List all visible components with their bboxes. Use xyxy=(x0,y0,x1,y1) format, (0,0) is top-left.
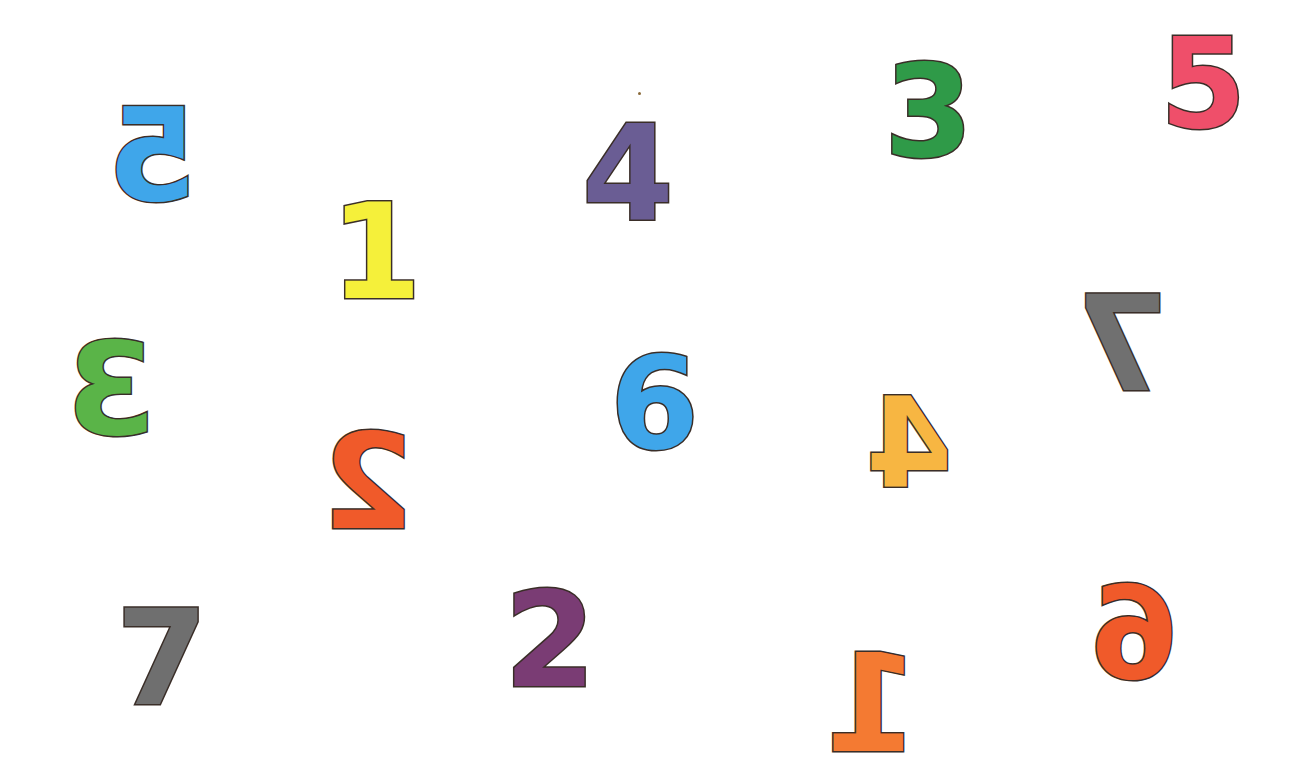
digit-orange-6-mirrored: 6 xyxy=(1090,570,1179,698)
digit-purple-2: 2 xyxy=(504,574,596,706)
digit-gray-7-mirrored: 7 xyxy=(1076,278,1168,410)
digit-glyph: 1 xyxy=(330,175,422,329)
digit-green-3-mirrored: 3 xyxy=(66,326,155,454)
digit-glyph: 7 xyxy=(1076,278,1168,410)
digit-blue-6: 6 xyxy=(610,340,699,468)
digit-glyph: 5 xyxy=(1160,12,1246,156)
digit-glyph: 5 xyxy=(108,92,197,220)
digit-glyph: 4 xyxy=(866,382,952,506)
digit-glyph: 6 xyxy=(1090,570,1179,698)
digit-green-3: 3 xyxy=(884,48,973,176)
digit-glyph: 2 xyxy=(322,416,414,548)
digit-yellow-1: 1 xyxy=(330,186,422,318)
digit-glyph: 7 xyxy=(116,581,208,735)
digit-glyph: 6 xyxy=(610,329,699,478)
digit-blue-5-mirrored: 5 xyxy=(108,92,197,220)
digit-glyph: 2 xyxy=(504,563,596,717)
digit-glyph: 3 xyxy=(884,37,973,186)
digit-gray-7: 7 xyxy=(116,592,208,724)
digit-pink-5: 5 xyxy=(1160,22,1246,146)
digit-glyph: 4 xyxy=(582,97,674,251)
digit-glyph: 3 xyxy=(66,326,155,454)
digit-red-2-mirrored: 2 xyxy=(322,416,414,548)
digit-glyph: 1 xyxy=(824,636,919,772)
speck xyxy=(638,92,641,95)
digit-orange-1-mirrored: 1 xyxy=(824,636,919,772)
digit-purple-4: 4 xyxy=(582,108,674,240)
digit-yellow-4-mirrored: 4 xyxy=(866,382,952,506)
